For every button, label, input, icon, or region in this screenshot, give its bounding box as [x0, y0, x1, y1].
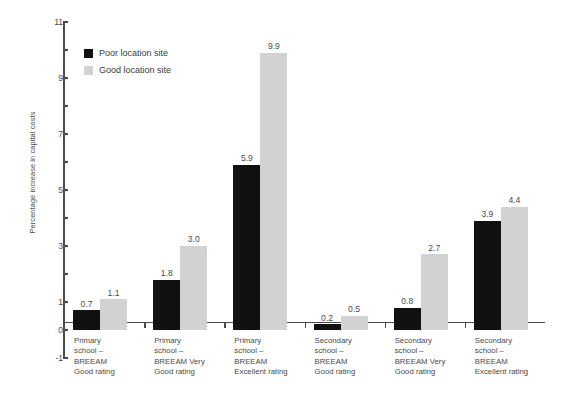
x-axis-separator-tick: [224, 323, 225, 328]
bar-good: 9.9: [260, 53, 287, 330]
x-axis-category-label: Secondary school – BREEAM Very Good rati…: [395, 336, 467, 378]
x-axis-separator-tick: [385, 323, 386, 328]
bar-good: 4.4: [501, 207, 528, 330]
bar-value-label: 0.7: [81, 300, 93, 309]
bar-good: 3.0: [180, 246, 207, 330]
bar-group: 0.82.7: [385, 22, 465, 322]
bar-group: 5.99.9: [224, 22, 304, 322]
bar-value-label: 2.7: [428, 244, 440, 253]
bar-value-label: 0.5: [348, 305, 360, 314]
bar-poor: 0.8: [394, 308, 421, 330]
bar-value-label: 5.9: [241, 154, 253, 163]
x-axis-category-label: Primary school – BREEAM Very Good rating: [154, 336, 226, 378]
bar-value-label: 1.1: [108, 289, 120, 298]
x-axis-category-label: Secondary school – BREEAM Excellent rati…: [475, 336, 547, 378]
x-axis-separator-tick: [305, 323, 306, 328]
bar-poor: 5.9: [233, 165, 260, 330]
bar-value-label: 3.0: [188, 235, 200, 244]
bar-value-label: 4.4: [508, 196, 520, 205]
bar-value-label: 0.2: [321, 314, 333, 323]
bar-good: 1.1: [100, 299, 127, 330]
bar-poor: 3.9: [474, 221, 501, 330]
bar-good: 2.7: [421, 254, 448, 330]
bar-poor: 1.8: [153, 280, 180, 330]
bar-value-label: 0.8: [401, 297, 413, 306]
bar-poor: 0.2: [314, 324, 341, 330]
bar-group: 3.94.4: [465, 22, 545, 322]
bar-group: 1.83.0: [144, 22, 224, 322]
bar-group: 0.71.1: [64, 22, 144, 322]
x-axis-separator-tick: [465, 323, 466, 328]
y-axis-tick: [63, 357, 68, 358]
y-axis-tick: [63, 329, 68, 330]
y-axis-title: Percentage increase in capital costs: [28, 78, 37, 268]
x-axis-separator-tick: [144, 323, 145, 328]
x-axis-category-label: Primary school – BREEAM Good rating: [74, 336, 146, 378]
x-axis-category-label: Primary school – BREEAM Excellent rating: [234, 336, 306, 378]
bar-group: 0.20.5: [305, 22, 385, 322]
bar-poor: 0.7: [73, 310, 100, 330]
bar-good: 0.5: [341, 316, 368, 330]
bar-value-label: 1.8: [161, 269, 173, 278]
plot-area: 0.71.11.83.05.99.90.20.50.82.73.94.4: [64, 22, 545, 322]
bar-value-label: 9.9: [268, 42, 280, 51]
bar-value-label: 3.9: [481, 210, 493, 219]
bar-chart: -101357911 Percentage increase in capita…: [0, 0, 575, 406]
x-axis-category-label: Secondary school – BREEAM Good rating: [315, 336, 387, 378]
